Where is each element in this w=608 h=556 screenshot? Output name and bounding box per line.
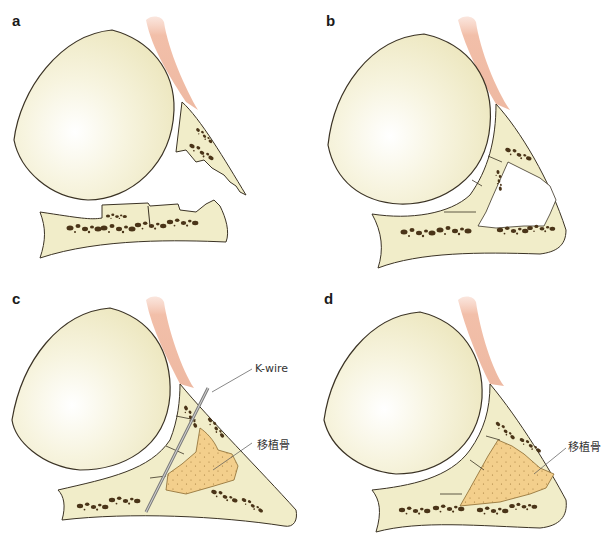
kwire-leader-line [212, 369, 252, 392]
panel-d-illustration [324, 296, 566, 532]
panel-c-illustration [12, 296, 297, 526]
panel-label-b: b [326, 12, 335, 29]
humeral-head-a [14, 30, 174, 200]
panel-label-c: c [12, 290, 20, 307]
figure-canvas [0, 0, 608, 556]
panel-label-d: d [324, 290, 333, 307]
panel-a-illustration [14, 16, 246, 258]
callout-bone-graft-d: 移植骨 [568, 438, 601, 454]
callout-k-wire: K-wire [255, 362, 288, 375]
humeral-head-b [328, 34, 490, 204]
panel-b-illustration [328, 16, 566, 268]
humeral-head-d [324, 312, 482, 474]
humeral-head-c [12, 308, 170, 470]
panel-label-a: a [12, 12, 20, 29]
glenoid-fragment-a [176, 102, 246, 195]
callout-bone-graft-c: 移植骨 [257, 436, 290, 452]
